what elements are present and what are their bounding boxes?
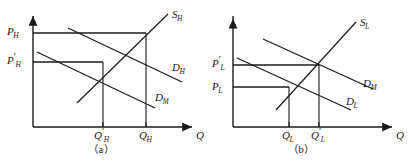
- axis-label-price-PL: PL: [212, 81, 223, 92]
- axis-label-quantity-QH-prime: Q′H: [94, 130, 110, 141]
- supply-curve-SH: [77, 14, 168, 103]
- curve-label-DM: DM: [155, 92, 169, 103]
- axis-label-x-Q: Q: [196, 130, 204, 141]
- panel-b: P′L PL QL Q′L Q SL DM DL （b）: [206, 0, 413, 166]
- axis-label-price-PL-prime: P′L: [212, 58, 225, 69]
- curve-label-SL: SL: [360, 17, 370, 28]
- demand-curve-DH: [68, 28, 182, 82]
- panel-a: PH P′H Q′H QH Q SH DH DM （a）: [0, 0, 207, 166]
- axis-label-quantity-QL: QL: [282, 130, 294, 141]
- curve-label-SH: SH: [172, 9, 183, 20]
- panel-b-plot: [206, 0, 413, 166]
- axis-label-quantity-QL-prime: Q′L: [311, 130, 325, 141]
- curve-label-DL: DL: [346, 96, 358, 107]
- panel-a-caption: （a）: [88, 145, 114, 156]
- panel-b-caption: （b）: [288, 145, 315, 156]
- curve-label-DM: DM: [363, 78, 377, 89]
- axis-label-x-Q: Q: [396, 130, 404, 141]
- axis-label-price-PH: PH: [7, 26, 19, 37]
- axis-label-price-PH-prime: P′H: [7, 55, 21, 66]
- curve-label-DH: DH: [172, 62, 185, 73]
- axis-label-quantity-QH: QH: [139, 130, 152, 141]
- supply-demand-figure: PH P′H Q′H QH Q SH DH DM （a）: [0, 0, 413, 166]
